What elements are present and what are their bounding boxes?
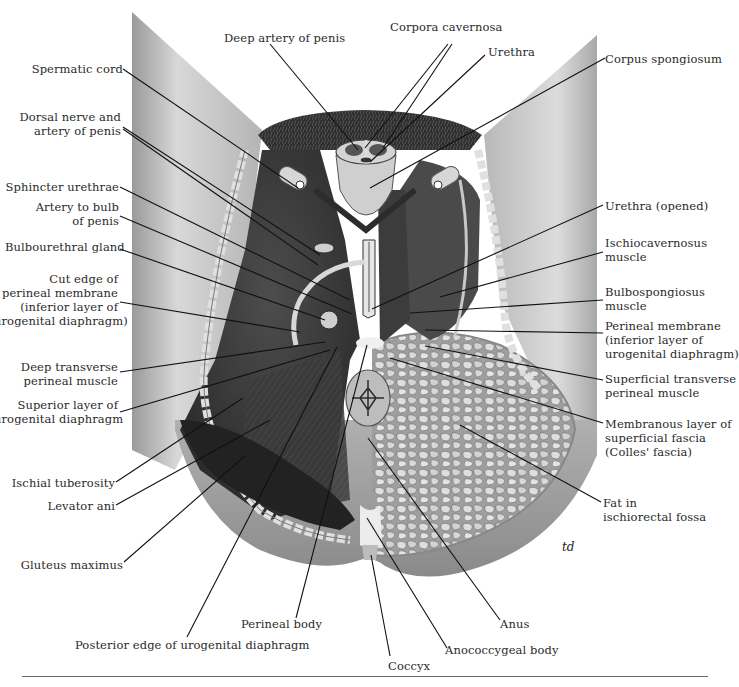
bulbourethral-gland [320,311,338,329]
label-cut-edge-perineal-membrane: Cut edge of perineal membrane (inferior … [0,272,118,328]
label-gluteus-maximus: Gluteus maximus [10,558,123,572]
perineal-body [356,337,384,349]
label-anus: Anus [500,617,529,631]
label-superficial-transverse-perineal: Superficial transverse perineal muscle [605,372,736,400]
label-anococcygeal-body: Anococcygeal body [445,643,559,657]
label-sphincter-urethrae: Sphincter urethrae [5,180,119,194]
leader-coccyx [371,555,390,656]
label-perineal-membrane: Perineal membrane (inferior layer of uro… [605,319,739,361]
label-bulbospongiosus: Bulbospongiosus muscle [605,285,705,313]
anus [346,370,390,426]
label-colles-fascia: Membranous layer of superficial fascia (… [605,417,732,459]
label-artery-bulb: Artery to bulb of penis [20,200,119,228]
label-posterior-edge-ugd: Posterior edge of urogenital diaphragm [75,638,310,652]
label-perineal-body: Perineal body [241,617,322,631]
label-spermatic-cord: Spermatic cord [20,62,123,76]
label-dorsal-nerve-artery: Dorsal nerve and artery of penis [10,110,121,138]
label-superior-layer-ugd: Superior layer of urogenital diaphragm [0,398,118,426]
label-corpora-cavernosa: Corpora cavernosa [390,20,502,34]
bottom-rule [22,676,708,677]
label-deep-transverse-perineal: Deep transverse perineal muscle [10,360,118,388]
label-corpus-spongiosum: Corpus spongiosum [605,52,722,66]
label-coccyx: Coccyx [388,659,430,673]
artist-signature: td [562,540,575,554]
coccyx [362,545,378,560]
label-ischial-tuberosity: Ischial tuberosity [10,476,115,490]
label-levator-ani: Levator ani [20,499,115,513]
label-ischiocavernosus: Ischiocavernosus muscle [605,236,707,264]
label-urethra-opened: Urethra (opened) [605,199,708,213]
label-bulbourethral-gland: Bulbourethral gland [5,240,119,254]
label-deep-artery-penis: Deep artery of penis [224,31,345,45]
anococcygeal-body [360,505,382,549]
label-fat-ischiorectal: Fat in ischiorectal fossa [603,496,706,524]
label-urethra: Urethra [488,45,535,59]
